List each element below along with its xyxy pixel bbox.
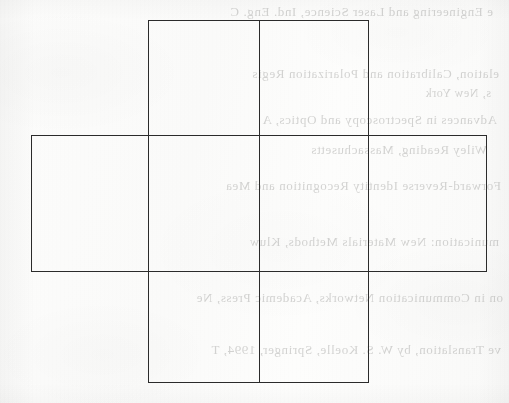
scanned-page: e Engineering and Laser Science, Ind. En… — [0, 0, 509, 403]
cube-net-center-divider — [259, 20, 260, 383]
cube-net-diagram — [0, 0, 509, 403]
